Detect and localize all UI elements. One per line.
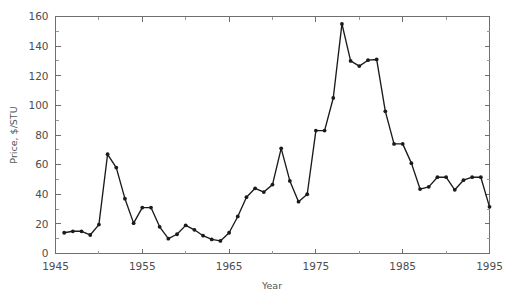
data-point — [436, 175, 440, 179]
price-year-line-chart: 020406080100120140160 194519551965197519… — [0, 0, 515, 302]
data-point — [297, 200, 301, 204]
data-point — [470, 175, 474, 179]
data-point — [444, 175, 448, 179]
data-point — [210, 238, 214, 242]
data-point — [375, 58, 379, 62]
data-point — [132, 221, 136, 225]
data-point — [262, 190, 266, 194]
data-point — [418, 187, 422, 191]
data-point — [392, 142, 396, 146]
data-point — [409, 161, 413, 165]
y-tick-label: 140 — [28, 40, 48, 52]
data-point — [271, 183, 275, 187]
data-point — [158, 225, 162, 229]
data-point — [253, 186, 257, 190]
y-tick-label: 60 — [35, 158, 48, 170]
x-tick-label: 1955 — [129, 260, 156, 272]
data-point — [357, 64, 361, 68]
data-point — [88, 233, 92, 237]
data-point — [340, 22, 344, 26]
chart-figure: 020406080100120140160 194519551965197519… — [0, 0, 515, 302]
y-tick-label: 0 — [42, 247, 49, 259]
chart-background — [0, 0, 515, 302]
data-point — [462, 178, 466, 182]
data-point — [331, 96, 335, 100]
data-point — [123, 197, 127, 201]
data-point — [288, 179, 292, 183]
data-point — [201, 234, 205, 238]
y-tick-label: 80 — [35, 129, 48, 141]
data-point — [227, 231, 231, 235]
y-tick-label: 160 — [28, 10, 48, 22]
y-axis-title: Price, $/STU — [8, 106, 19, 163]
data-point — [314, 129, 318, 133]
data-point — [62, 231, 66, 235]
data-point — [192, 228, 196, 232]
data-point — [427, 185, 431, 189]
x-tick-label: 1975 — [303, 260, 330, 272]
data-point — [366, 58, 370, 62]
x-tick-label: 1945 — [42, 260, 69, 272]
data-point — [453, 188, 457, 192]
data-point — [149, 206, 153, 210]
data-point — [97, 223, 101, 227]
data-point — [323, 129, 327, 133]
data-point — [175, 232, 179, 236]
data-point — [305, 192, 309, 196]
data-point — [245, 195, 249, 199]
x-axis-title: Year — [261, 280, 282, 291]
x-tick-label: 1985 — [389, 260, 416, 272]
data-point — [71, 229, 75, 233]
y-tick-label: 100 — [28, 99, 48, 111]
data-point — [401, 142, 405, 146]
data-point — [479, 175, 483, 179]
y-tick-label: 20 — [35, 218, 48, 230]
data-point — [140, 206, 144, 210]
data-point — [114, 166, 118, 170]
data-point — [80, 229, 84, 233]
x-tick-label: 1995 — [476, 260, 503, 272]
data-point — [106, 152, 110, 156]
data-point — [349, 59, 353, 63]
data-point — [488, 205, 492, 209]
data-point — [279, 146, 283, 150]
data-point — [184, 223, 188, 227]
y-tick-label: 120 — [28, 70, 48, 82]
data-point — [166, 237, 170, 241]
data-point — [236, 215, 240, 219]
y-tick-label: 40 — [35, 188, 48, 200]
x-tick-label: 1965 — [216, 260, 243, 272]
data-point — [383, 109, 387, 113]
data-point — [219, 239, 223, 243]
